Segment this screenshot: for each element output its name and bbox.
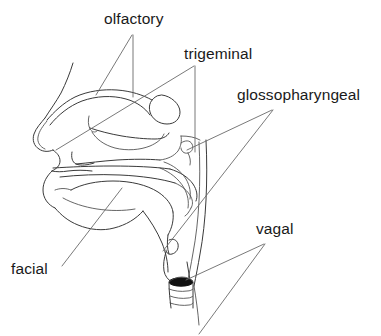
- middle-turbinate-under-curve: [92, 132, 164, 150]
- forehead-nasal-bridge-outline: [45, 63, 73, 118]
- chin-jaw-outline: [55, 208, 143, 230]
- tongue-root: [168, 212, 173, 235]
- leader-trigeminal-diagonal: [56, 66, 194, 150]
- eustachian-tube-tail: [188, 153, 190, 165]
- nasal-roof-cribriform-line: [47, 90, 152, 120]
- superior-nasal-chamber: [50, 97, 150, 125]
- posterior-pharyngeal-wall-outer: [194, 140, 207, 286]
- lips-outline: [43, 171, 55, 208]
- label-trigeminal: trigeminal: [184, 46, 252, 62]
- hard-palate-superior-line: [53, 166, 170, 169]
- pharyngeal-arc-2: [160, 168, 188, 208]
- uvula: [185, 208, 191, 216]
- tracheal-ring-2: [170, 296, 193, 298]
- lower-lip-inner: [55, 189, 71, 191]
- leader-vagal-lower: [199, 244, 265, 334]
- label-olfactory: olfactory: [104, 11, 163, 27]
- leader-olfactory-a: [96, 35, 132, 95]
- nose-tip-outline: [33, 118, 53, 151]
- label-facial: facial: [11, 261, 48, 277]
- neck-posterior-contour: [194, 286, 199, 325]
- tracheal-ring-3: [170, 303, 193, 305]
- label-vagal: vagal: [256, 221, 294, 237]
- tracheal-ring-1: [169, 289, 193, 291]
- leader-glossopharyngeal-upper: [187, 110, 272, 150]
- choana-curve: [160, 136, 181, 160]
- sphenoid-sinus-outline: [149, 95, 180, 124]
- inferior-meatus-floor: [76, 159, 160, 164]
- label-glossopharyngeal: glossopharyngeal: [237, 87, 360, 103]
- leader-facial: [62, 188, 122, 266]
- trachea-left-wall: [169, 283, 171, 308]
- neck-front-contour: [143, 211, 168, 272]
- philtrum-line: [52, 170, 92, 172]
- anatomy-diagram: olfactory trigeminal glossopharyngeal va…: [0, 0, 381, 336]
- hard-palate-inferior-line: [60, 175, 175, 183]
- posterior-pharyngeal-wall-inner: [187, 142, 200, 284]
- nasal-cavity-group: [47, 90, 181, 165]
- eustachian-tube-opening: [181, 141, 193, 153]
- nasopharynx-roof: [181, 136, 200, 140]
- tongue-dorsum: [71, 181, 173, 212]
- leader-lines-group: [56, 35, 273, 334]
- middle-turbinate: [90, 128, 169, 139]
- soft-palate-curve: [170, 169, 197, 201]
- floor-of-mouth: [63, 198, 135, 211]
